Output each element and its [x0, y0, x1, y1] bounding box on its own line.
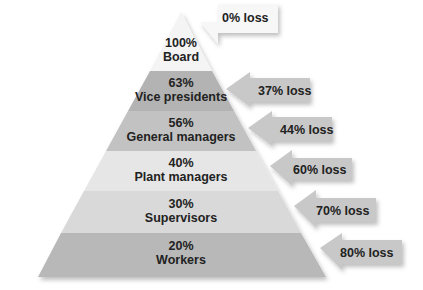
level-label-supervisors: 30% Supervisors — [121, 197, 241, 225]
level-role: Supervisors — [121, 211, 241, 225]
loss-text-workers: 80% loss — [340, 246, 394, 260]
level-label-vice-presidents: 63% Vice presidents — [121, 76, 241, 104]
level-role: Plant managers — [121, 170, 241, 184]
level-label-workers: 20% Workers — [121, 239, 241, 267]
level-label-general-managers: 56% General managers — [111, 116, 251, 144]
level-role: Vice presidents — [121, 90, 241, 104]
loss-text-board: 0% loss — [222, 11, 269, 25]
level-label-board: 100% Board — [141, 36, 221, 64]
loss-text-plant-managers: 60% loss — [293, 163, 347, 177]
level-percent: 56% — [111, 116, 251, 130]
level-percent: 30% — [121, 197, 241, 211]
level-percent: 63% — [121, 76, 241, 90]
level-role: General managers — [111, 130, 251, 144]
level-role: Board — [141, 50, 221, 64]
level-role: Workers — [121, 253, 241, 267]
level-percent: 100% — [141, 36, 221, 50]
loss-text-supervisors: 70% loss — [316, 204, 370, 218]
level-percent: 40% — [121, 156, 241, 170]
loss-text-general-managers: 44% loss — [280, 123, 334, 137]
level-label-plant-managers: 40% Plant managers — [121, 156, 241, 184]
loss-text-vice-presidents: 37% loss — [258, 84, 312, 98]
level-percent: 20% — [121, 239, 241, 253]
